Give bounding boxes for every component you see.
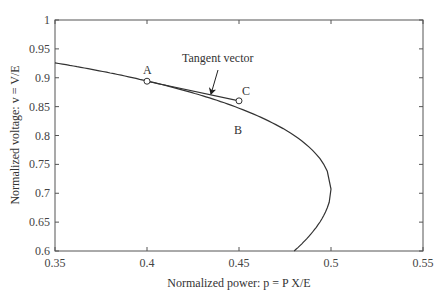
tangent-vector-annotation: Tangent vector: [182, 51, 253, 65]
x-tick-label: 0.35: [45, 256, 66, 270]
x-tick-label: 0.45: [229, 256, 250, 270]
x-axis-label: Normalized power: p = P X/E: [167, 276, 310, 290]
x-tick-label: 0.5: [324, 256, 339, 270]
y-tick-label: 0.6: [35, 244, 50, 258]
y-tick-label: 0.8: [35, 129, 50, 143]
y-tick-label: 0.95: [29, 42, 50, 56]
y-tick-label: 0.65: [29, 215, 50, 229]
x-tick-label: 0.4: [140, 256, 155, 270]
label-b: B: [234, 123, 242, 137]
y-tick-label: 0.7: [35, 186, 50, 200]
y-tick-label: 0.85: [29, 100, 50, 114]
point-c-marker: [236, 98, 242, 104]
pv-curve-chart: 0.350.40.450.50.55 0.60.650.70.750.80.85…: [0, 0, 444, 296]
x-tick-label: 0.55: [413, 256, 434, 270]
label-a: A: [143, 63, 152, 77]
y-tick-labels: 0.60.650.70.750.80.850.90.951: [29, 13, 50, 258]
y-axis-label: Normalized voltage: v = V/E: [8, 65, 22, 204]
y-tick-label: 1: [44, 13, 50, 27]
y-tick-label: 0.75: [29, 157, 50, 171]
y-tick-label: 0.9: [35, 71, 50, 85]
label-c: C: [242, 84, 250, 98]
x-tick-labels: 0.350.40.450.50.55: [45, 256, 434, 270]
tangent-annotation-arrow: [211, 70, 218, 94]
tangent-vector-line: [147, 81, 239, 101]
point-a-marker: [144, 78, 150, 84]
